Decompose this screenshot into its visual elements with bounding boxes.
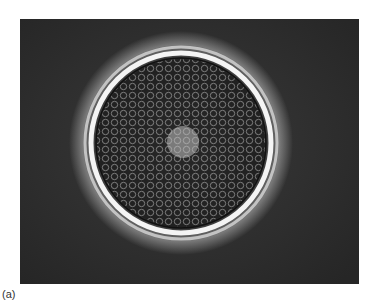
micrograph-image [20,19,359,284]
panel-label: (a) [2,288,15,300]
